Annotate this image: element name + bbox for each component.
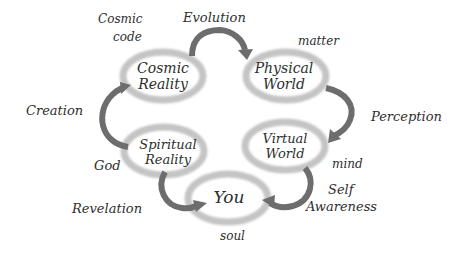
node-cosmic-reality: Cosmic Reality <box>123 52 203 100</box>
arrow-self-awareness <box>262 168 311 208</box>
node-label: You <box>214 187 245 207</box>
node-label-line2: World <box>266 146 305 161</box>
node-label-line1: Virtual <box>262 131 307 146</box>
node-label-line2: Reality <box>137 76 189 92</box>
annotation-cosmic-code-line2: code <box>113 30 142 44</box>
node-label-line1: Physical <box>254 60 314 76</box>
node-label-line1: Spiritual <box>139 137 196 152</box>
annotation-god: God <box>94 158 121 173</box>
arrow-perception <box>326 88 352 143</box>
node-you: You <box>188 174 268 222</box>
edge-label-self: Self <box>328 182 356 197</box>
edge-label-perception: Perception <box>370 109 442 124</box>
node-spiritual-reality: Spiritual Reality <box>124 127 204 175</box>
edge-label-awareness: Awareness <box>305 199 377 214</box>
annotation-mind: mind <box>332 157 363 171</box>
annotation-matter: matter <box>298 34 340 48</box>
arrow-evolution <box>192 30 253 60</box>
node-label-line1: Cosmic <box>137 60 189 76</box>
node-virtual-world: Virtual World <box>245 122 325 170</box>
reality-cycle-diagram: Cosmic Reality Physical World Spiritual … <box>0 0 473 258</box>
node-label-line2: World <box>263 76 305 92</box>
node-physical-world: Physical World <box>246 52 326 100</box>
node-label-line2: Reality <box>144 152 192 167</box>
edge-label-creation: Creation <box>26 103 83 118</box>
annotation-cosmic-code-line1: Cosmic <box>98 12 143 26</box>
annotation-soul: soul <box>220 229 245 243</box>
edge-label-revelation: Revelation <box>71 201 142 216</box>
edge-label-evolution: Evolution <box>182 10 246 25</box>
